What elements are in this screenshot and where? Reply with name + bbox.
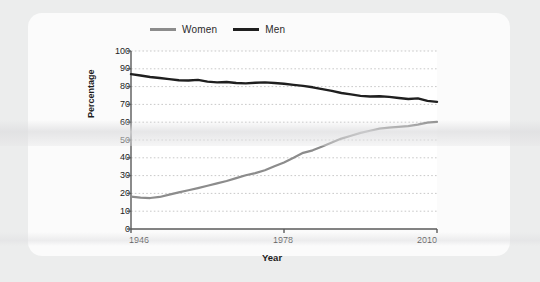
plot-canvas — [0, 0, 540, 282]
line-chart: Women Men Percentage Year 01020304050607… — [0, 0, 540, 282]
